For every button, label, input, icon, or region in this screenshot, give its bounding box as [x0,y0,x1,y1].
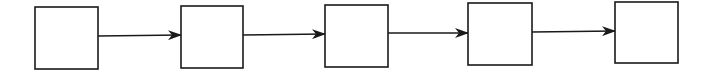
node-box-3 [325,5,388,67]
node-box-1 [35,7,98,69]
arrow-box-1-to-box-2 [98,35,181,36]
box-shape [325,5,388,67]
node-box-4 [468,3,532,65]
box-shape [35,7,98,69]
node-box-2 [181,6,243,68]
node-box-5 [615,2,678,63]
box-shape [468,3,532,65]
arrow-box-2-to-box-3 [243,34,325,35]
arrow-box-4-to-box-5 [532,31,615,32]
box-shape [615,2,678,63]
flow-diagram [0,0,708,70]
box-shape [181,6,243,68]
